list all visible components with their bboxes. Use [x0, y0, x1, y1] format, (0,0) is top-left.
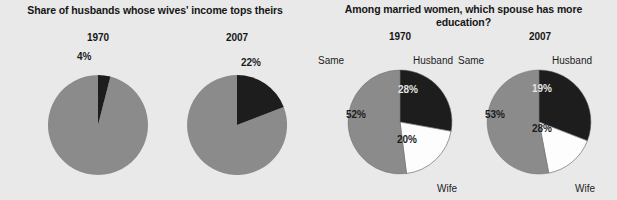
income-2007-pie-svg	[187, 75, 287, 175]
education-1970-same-pct: 52%	[346, 109, 366, 120]
education-1970-husband-pct: 28%	[398, 84, 418, 95]
education-1970-husband-label: Husband	[413, 55, 453, 66]
education-1970-slice-wife	[400, 122, 451, 174]
education-2007-year-label: 2007	[510, 31, 570, 42]
income-2007-year-label: 2007	[207, 32, 267, 43]
education-1970-year-label: 1970	[370, 31, 430, 42]
income-1970-pie-svg	[48, 75, 148, 175]
panel-education-title: Among married women, which spouse has mo…	[310, 3, 617, 28]
income-2007-dark-pct: 22%	[241, 57, 261, 68]
education-2007-wife-pct: 28%	[532, 123, 552, 134]
income-1970-slice-gray	[48, 75, 148, 175]
income-1970-pie	[48, 75, 148, 175]
panel-income: Share of husbands whose wives' income to…	[0, 0, 310, 200]
education-1970-wife-pct: 20%	[397, 134, 417, 145]
education-1970-same-label: Same	[318, 55, 344, 66]
education-2007-same-pct: 53%	[485, 109, 505, 120]
panel-education: Among married women, which spouse has mo…	[310, 0, 617, 200]
education-2007-husband-label: Husband	[552, 55, 592, 66]
income-1970-year-label: 1970	[68, 32, 128, 43]
education-1970-wife-label: Wife	[437, 183, 457, 194]
income-2007-pie	[187, 75, 287, 175]
education-1970-slice-husband	[400, 70, 452, 131]
panel-income-title: Share of husbands whose wives' income to…	[0, 4, 310, 17]
education-2007-husband-pct: 19%	[532, 83, 552, 94]
infographic-root: Share of husbands whose wives' income to…	[0, 0, 617, 200]
income-1970-dark-pct: 4%	[77, 51, 91, 62]
education-2007-same-label: Same	[458, 55, 484, 66]
education-2007-wife-label: Wife	[575, 183, 595, 194]
